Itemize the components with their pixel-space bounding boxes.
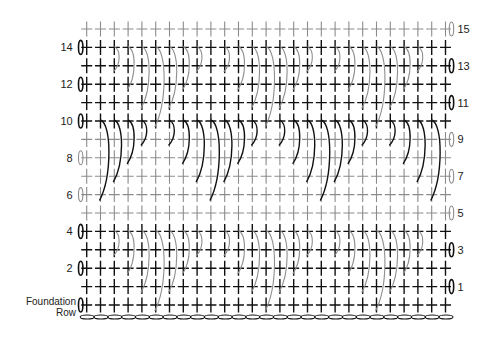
single-crochet-icon (123, 279, 134, 294)
single-crochet-icon (371, 150, 382, 165)
single-crochet-icon (150, 150, 161, 165)
row-number-7: 7 (458, 170, 488, 182)
single-crochet-icon (440, 224, 451, 239)
single-crochet-icon (178, 279, 189, 294)
single-crochet-icon (109, 77, 120, 92)
single-crochet-icon (302, 22, 313, 37)
chain-stitch-icon (315, 315, 329, 319)
single-crochet-icon (247, 224, 258, 239)
single-crochet-icon (205, 279, 216, 294)
single-crochet-icon (233, 58, 244, 73)
single-crochet-icon (95, 132, 106, 147)
single-crochet-icon (385, 187, 396, 202)
single-crochet-icon (426, 169, 437, 184)
single-crochet-icon (440, 187, 451, 202)
chain-stitch-icon (135, 315, 149, 319)
single-crochet-icon (412, 77, 423, 92)
single-crochet-icon (205, 169, 216, 184)
single-crochet-icon (385, 224, 396, 239)
single-crochet-icon (330, 298, 341, 313)
single-crochet-icon (219, 298, 230, 313)
chain-stitch-icon (80, 315, 94, 319)
single-crochet-icon (247, 40, 258, 55)
single-crochet-icon (219, 261, 230, 276)
single-crochet-icon (136, 242, 147, 257)
single-crochet-icon (192, 187, 203, 202)
single-crochet-icon (164, 58, 175, 73)
single-crochet-icon (288, 40, 299, 55)
single-crochet-icon (178, 95, 189, 110)
single-crochet-icon (81, 279, 92, 294)
single-crochet-icon (150, 95, 161, 110)
single-crochet-icon (164, 187, 175, 202)
single-crochet-icon (357, 58, 368, 73)
single-crochet-icon (164, 206, 175, 221)
single-crochet-icon (316, 58, 327, 73)
turning-chain-icon (449, 243, 453, 257)
single-crochet-icon (95, 206, 106, 221)
single-crochet-icon (399, 132, 410, 147)
single-crochet-icon (343, 242, 354, 257)
single-crochet-icon (261, 169, 272, 184)
row-number-12: 12 (43, 78, 73, 90)
single-crochet-icon (426, 114, 437, 129)
single-crochet-icon (247, 242, 258, 257)
single-crochet-icon (219, 279, 230, 294)
single-crochet-icon (95, 40, 106, 55)
single-crochet-icon (81, 242, 92, 257)
single-crochet-icon (178, 187, 189, 202)
single-crochet-icon (357, 150, 368, 165)
single-crochet-icon (385, 261, 396, 276)
chain-stitch-icon (370, 315, 384, 319)
single-crochet-icon (385, 169, 396, 184)
single-crochet-icon (95, 114, 106, 129)
single-crochet-icon (95, 58, 106, 73)
single-crochet-icon (178, 58, 189, 73)
chain-stitch-icon (94, 315, 108, 319)
single-crochet-icon (81, 58, 92, 73)
single-crochet-icon (343, 40, 354, 55)
single-crochet-icon (440, 261, 451, 276)
single-crochet-icon (316, 114, 327, 129)
single-crochet-icon (247, 58, 258, 73)
single-crochet-icon (219, 132, 230, 147)
single-crochet-icon (164, 169, 175, 184)
single-crochet-icon (261, 77, 272, 92)
turning-chain-icon (79, 40, 83, 54)
single-crochet-icon (343, 169, 354, 184)
single-crochet-icon (274, 150, 285, 165)
single-crochet-icon (399, 169, 410, 184)
single-crochet-icon (261, 261, 272, 276)
single-crochet-icon (343, 187, 354, 202)
single-crochet-icon (219, 114, 230, 129)
chain-stitch-icon (122, 315, 136, 319)
foundation-label-line2: Row (6, 307, 76, 318)
single-crochet-icon (219, 95, 230, 110)
single-crochet-icon (302, 95, 313, 110)
single-crochet-icon (412, 279, 423, 294)
single-crochet-icon (426, 298, 437, 313)
foundation-label-line1: Foundation (6, 296, 76, 307)
single-crochet-icon (302, 261, 313, 276)
single-crochet-icon (316, 77, 327, 92)
single-crochet-icon (385, 40, 396, 55)
chain-stitch-icon (232, 315, 246, 319)
single-crochet-icon (150, 58, 161, 73)
single-crochet-icon (371, 22, 382, 37)
single-crochet-icon (247, 77, 258, 92)
chain-stitch-icon (425, 315, 439, 319)
single-crochet-icon (109, 298, 120, 313)
single-crochet-icon (205, 206, 216, 221)
single-crochet-icon (288, 58, 299, 73)
single-crochet-icon (440, 40, 451, 55)
single-crochet-icon (426, 40, 437, 55)
single-crochet-icon (233, 298, 244, 313)
single-crochet-icon (274, 298, 285, 313)
single-crochet-icon (109, 132, 120, 147)
single-crochet-icon (233, 187, 244, 202)
single-crochet-icon (261, 150, 272, 165)
single-crochet-icon (150, 169, 161, 184)
single-crochet-icon (261, 22, 272, 37)
single-crochet-icon (136, 187, 147, 202)
single-crochet-icon (399, 58, 410, 73)
